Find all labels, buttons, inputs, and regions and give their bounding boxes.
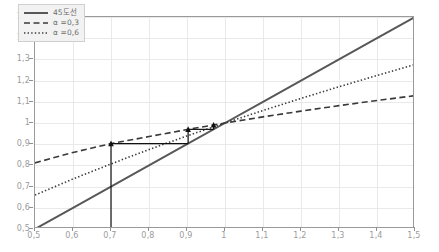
series-line-2: [35, 64, 414, 195]
x-axis-tick-label: 1,5: [407, 231, 420, 240]
legend-item: α =0,3: [23, 18, 79, 28]
legend-item: α =0,6: [23, 28, 79, 38]
legend-item-label: 45도선: [53, 8, 77, 18]
plot-area: [34, 16, 414, 228]
legend-line-sample: [23, 18, 49, 28]
y-axis-tick-label: 0,5: [17, 224, 30, 233]
y-axis-tick-label: 1: [25, 118, 30, 127]
legend-item-label: α =0,6: [53, 28, 79, 38]
y-axis-tick-label: 0,6: [17, 202, 30, 211]
legend-item-label: α =0,3: [53, 18, 79, 28]
y-axis-tick-label: 0,8: [17, 160, 30, 169]
chart-figure: 0,50,60,70,80,911,11,21,31,41,5 0,50,60,…: [0, 0, 439, 252]
series-layer: [35, 17, 414, 228]
x-axis-tick-label: 0,7: [103, 231, 116, 240]
legend-line-sample: [23, 8, 49, 18]
y-axis-tick-label: 0,9: [17, 139, 30, 148]
legend-item: 45도선: [23, 8, 79, 18]
y-axis-tick-label: 0,7: [17, 181, 30, 190]
x-axis-tick-label: 0,9: [179, 231, 192, 240]
x-axis-tick-label: 0,8: [141, 231, 154, 240]
x-axis-tick-label: 1,1: [255, 231, 268, 240]
annotation-layer: [111, 125, 214, 228]
x-axis-tick-label: 1,3: [331, 231, 344, 240]
chart-legend: 45도선α =0,3α =0,6: [18, 4, 85, 42]
series-line-1: [35, 96, 414, 163]
legend-line-sample: [23, 28, 49, 38]
x-axis-tick-label: 1: [221, 231, 226, 240]
curve-layer: [35, 17, 414, 228]
y-axis-tick-label: 1,3: [17, 54, 30, 63]
x-axis-tick-label: 1,2: [293, 231, 306, 240]
y-axis-tick-label: 1,2: [17, 75, 30, 84]
y-axis-tick-label: 1,1: [17, 96, 30, 105]
x-axis-tick-label: 0,6: [65, 231, 78, 240]
x-axis-tick-label: 1,4: [369, 231, 382, 240]
